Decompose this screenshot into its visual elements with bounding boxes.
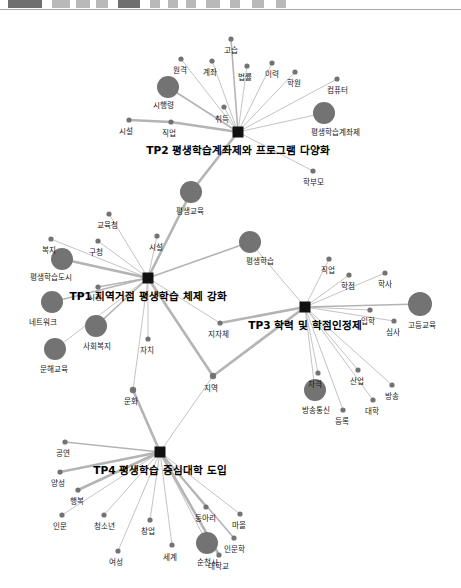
graph-node-saneop[interactable] <box>355 367 360 372</box>
graph-node-segye[interactable] <box>169 542 174 547</box>
graph-node-pyeongsaenghaksup[interactable] <box>239 231 261 253</box>
toolbar-control-9[interactable] <box>230 0 240 8</box>
graph-node-beopryul[interactable] <box>244 63 249 68</box>
toolbar-control-10[interactable] <box>252 0 264 8</box>
graph-node-chwideuk[interactable] <box>221 104 226 109</box>
graph-node-label-iryeok: 이력 <box>265 69 279 79</box>
graph-node-label-jageok: 자격 <box>308 379 322 389</box>
graph-edge <box>191 132 238 192</box>
graph-node-label-jachi: 자치 <box>140 346 154 355</box>
graph-node-yangseong[interactable] <box>57 469 62 474</box>
graph-node-munhaegyoyuk[interactable] <box>44 338 66 360</box>
graph-node-bangsong[interactable] <box>389 382 394 387</box>
toolbar-control-1[interactable] <box>52 0 70 8</box>
graph-node-label-yeoseong: 여성 <box>109 557 123 567</box>
graph-node-label-haengbok: 행복 <box>70 496 84 506</box>
graph-node-deungrok[interactable] <box>340 407 345 412</box>
graph-node-ipak[interactable] <box>367 307 372 312</box>
graph-edge <box>150 452 160 520</box>
graph-node-gosup[interactable] <box>228 36 233 41</box>
toolbar-control-8[interactable] <box>206 0 220 8</box>
graph-node-label-daehak: 대학 <box>365 406 379 416</box>
graph-node-changeop[interactable] <box>147 517 152 522</box>
graph-node-network[interactable] <box>41 291 63 313</box>
toolbar-control-2[interactable] <box>76 0 90 8</box>
graph-node-gyoyukcheong[interactable] <box>106 211 111 216</box>
graph-edge <box>250 242 305 307</box>
graph-edge <box>305 304 420 307</box>
graph-node-jageok[interactable] <box>315 370 320 375</box>
graph-node-munhwa[interactable] <box>130 387 136 393</box>
graph-node-yeoseong[interactable] <box>115 548 120 553</box>
graph-node-label-inmun: 인문 <box>53 521 67 531</box>
graph-node-computer[interactable] <box>334 76 339 81</box>
graph-node-dongari[interactable] <box>203 504 208 509</box>
graph-node-sicheong[interactable] <box>95 284 100 289</box>
toolbar-control-7[interactable] <box>186 0 196 8</box>
graph-node-maeul[interactable] <box>237 511 242 516</box>
toolbar-control-5[interactable] <box>150 0 160 8</box>
toolbar-control-11[interactable] <box>276 0 286 8</box>
graph-node-label-pyeongsaenggyoyuk: 평생교육 <box>176 206 204 216</box>
graph-node-daehak[interactable] <box>370 397 375 402</box>
graph-edge <box>213 307 305 376</box>
graph-node-label-bokji: 복지 <box>42 246 56 255</box>
graph-node-label-daehakgyo: 대학교 <box>208 561 229 571</box>
graph-node-jiyeok[interactable] <box>210 373 216 379</box>
graph-node-label-sisul1: 시설 <box>149 242 163 252</box>
graph-node-label-pyeongsaenghaksup: 평생학습 <box>246 256 274 266</box>
graph-node-sihaengryeong[interactable] <box>157 76 179 98</box>
graph-node-hagwon[interactable] <box>292 69 297 74</box>
graph-hub-tp1[interactable] <box>143 273 154 284</box>
graph-node-label-inmunhak: 인문학 <box>224 544 245 554</box>
graph-node-label-saneop: 산업 <box>350 376 364 386</box>
graph-node-iryeok[interactable] <box>269 60 274 65</box>
graph-node-simsa[interactable] <box>391 318 396 323</box>
graph-node-jachi[interactable] <box>145 336 150 341</box>
graph-node-sisul2[interactable] <box>126 117 131 122</box>
toolbar-control-0[interactable] <box>8 0 42 8</box>
graph-node-bokji[interactable] <box>48 236 53 241</box>
graph-hub-tp4[interactable] <box>155 447 166 458</box>
graph-node-jikeop3[interactable] <box>326 256 331 261</box>
graph-node-sahoebokji[interactable] <box>85 315 107 337</box>
graph-node-label-sahoebokji: 사회복지 <box>83 342 111 351</box>
graph-node-haengbok[interactable] <box>75 487 80 492</box>
graph-node-label-wongyeok: 원격 <box>173 65 187 75</box>
graph-node-godeunggyoyuk[interactable] <box>408 292 432 316</box>
toolbar-control-6[interactable] <box>168 0 178 8</box>
graph-hub-tp2[interactable] <box>233 127 244 138</box>
toolbar-control-4[interactable] <box>118 0 140 8</box>
graph-node-jijache[interactable] <box>217 320 222 325</box>
graph-node-jikeop2[interactable] <box>168 119 173 124</box>
graph-node-daehakgyo[interactable] <box>216 552 221 557</box>
graph-node-inmun[interactable] <box>59 512 64 517</box>
graph-node-label-beopryul: 법률 <box>238 72 252 82</box>
graph-node-cheongsonyeon[interactable] <box>101 512 106 517</box>
graph-node-hakjeom[interactable] <box>346 272 351 277</box>
graph-node-label-sisul2: 시설 <box>119 126 133 136</box>
graph-hub-tp3[interactable] <box>300 302 311 313</box>
graph-node-label-gosup: 고습 <box>224 46 238 55</box>
graph-node-label-gongyeon: 공연 <box>56 449 70 458</box>
graph-node-gongyeon[interactable] <box>62 439 67 444</box>
graph-node-label-gyoyukcheong: 교육청 <box>97 221 118 230</box>
graph-node-suncheonsi[interactable] <box>196 532 218 554</box>
graph-hub-label-tp2: TP2 평생학습계좌제와 프로그램 다양화 <box>146 144 329 156</box>
graph-node-haksa[interactable] <box>382 270 387 275</box>
graph-node-label-changeop: 창업 <box>141 527 155 536</box>
graph-node-label-bangsong: 방송 <box>385 391 399 401</box>
graph-node-wongyeok[interactable] <box>178 56 183 61</box>
graph-node-gyejwa[interactable] <box>209 58 214 63</box>
graph-edge <box>65 442 160 452</box>
graph-node-inmunhak[interactable] <box>231 535 236 540</box>
graph-node-label-haksupdosi: 평생학습도시 <box>30 272 72 282</box>
graph-node-label-gucheong: 구청 <box>89 248 103 257</box>
graph-node-sisul1[interactable] <box>154 233 159 238</box>
graph-node-pyeongsaeng_gyejwa[interactable] <box>313 102 335 124</box>
graph-node-label-maeul: 마을 <box>232 521 246 530</box>
graph-node-gucheong[interactable] <box>95 238 100 243</box>
graph-node-hakbumo[interactable] <box>310 168 315 173</box>
graph-node-pyeongsaenggyoyuk[interactable] <box>180 181 202 203</box>
toolbar-control-3[interactable] <box>96 0 108 8</box>
